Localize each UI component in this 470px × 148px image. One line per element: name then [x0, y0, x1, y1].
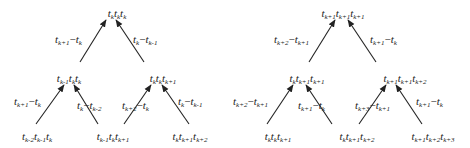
left-node-mid-left: tk-1tktk — [57, 73, 81, 84]
left-node-bot-2: tk-1tktk+1 — [97, 131, 130, 142]
left-arrow-0 — [80, 20, 106, 62]
right-edge-label-4: tk+3−tk+1 — [355, 100, 390, 111]
left-edge-label-1: tk−tk-1 — [133, 34, 157, 45]
right-node-bot-1: tktktk+1 — [265, 131, 292, 142]
left-edge-label-0: tk+1−tk — [55, 34, 82, 45]
right-node-bot-2: tktk+1tk+2 — [340, 131, 375, 142]
right-edge-label-5: tk+1−tk — [416, 96, 443, 107]
right-edge-label-2: tk+2−tk+1 — [233, 96, 268, 107]
right-node-mid-left: tktk+1tk+1 — [290, 73, 325, 84]
left-node-bot-3: tktk+1tk+2 — [173, 131, 208, 142]
right-node-bot-3: tk+1tk+2tk+3 — [411, 131, 454, 142]
right-node-mid-right: tk+1tk+1tk+2 — [383, 73, 426, 84]
right-arrow-2 — [267, 85, 293, 124]
left-node-mid-right: tktktk+1 — [150, 73, 177, 84]
left-edge-label-2: tk+1−tk — [14, 96, 41, 107]
right-node-top: tk+1tk+1tk+1 — [321, 8, 364, 19]
right-edge-label-1: tk+1−tk — [370, 34, 397, 45]
left-edge-label-4: tk+2−tk — [122, 100, 149, 111]
right-edge-label-3: tk+1−tk — [298, 100, 325, 111]
right-edge-label-0: tk+2−tk+1 — [274, 34, 309, 45]
left-node-top: tktktk — [108, 8, 127, 19]
left-node-bot-1: tk-2tk-1tk — [22, 131, 52, 142]
left-edge-label-3: tk−tk-2 — [77, 100, 101, 111]
left-edge-label-5: tk−tk-1 — [178, 96, 202, 107]
right-arrow-0 — [309, 20, 335, 62]
